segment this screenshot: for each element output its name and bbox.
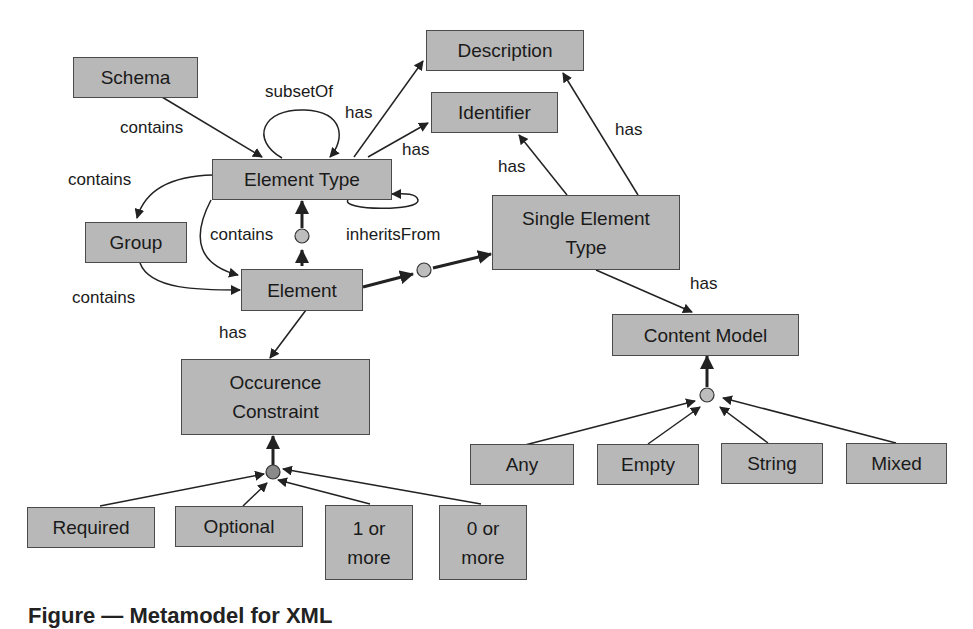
edge-label-element-has-occurence: has	[219, 323, 246, 343]
node-mixed-label: Mixed	[871, 449, 922, 478]
edge-set-has-identifier	[519, 135, 567, 195]
node-content-model-label: Content Model	[644, 321, 768, 350]
node-optional-label: Optional	[204, 512, 275, 541]
node-single-element-type: Single Element Type	[492, 195, 680, 270]
node-description: Description	[426, 30, 584, 71]
node-optional: Optional	[175, 506, 303, 547]
figure-caption: Figure — Metamodel for XML	[28, 603, 332, 629]
edge-label-et-has-description: has	[345, 103, 372, 123]
node-schema: Schema	[73, 57, 198, 98]
node-empty-label: Empty	[621, 450, 675, 479]
junction-content-model	[700, 388, 714, 402]
node-identifier-label: Identifier	[458, 98, 531, 127]
node-occurence-constraint-label-1: Occurence	[230, 368, 322, 397]
edge-element-has-occurence	[270, 310, 306, 358]
edge-label-set-has-content-model: has	[690, 274, 717, 294]
node-required: Required	[27, 507, 155, 548]
node-mixed: Mixed	[846, 443, 947, 484]
node-element: Element	[241, 269, 363, 311]
node-element-label: Element	[267, 276, 337, 305]
junction-single-element-type	[417, 263, 431, 277]
node-group-label: Group	[110, 228, 163, 257]
node-empty: Empty	[597, 444, 699, 485]
node-zero-or-more: 0 or more	[439, 505, 527, 580]
node-single-element-type-label-1: Single Element	[522, 204, 650, 233]
node-one-or-more-label-2: more	[347, 543, 390, 572]
node-schema-label: Schema	[101, 63, 171, 92]
node-element-type: Element Type	[212, 159, 392, 200]
edge-label-inherits-from: inheritsFrom	[346, 225, 440, 245]
edge-label-set-has-description: has	[615, 120, 642, 140]
node-zero-or-more-label-2: more	[461, 543, 504, 572]
node-required-label: Required	[52, 513, 129, 542]
node-element-type-label: Element Type	[244, 165, 360, 194]
edge-label-group-contains-element: contains	[72, 288, 135, 308]
edge-subset-of	[264, 110, 339, 158]
edge-label-et-contains-group: contains	[68, 170, 131, 190]
junction-element-type	[295, 229, 309, 243]
edge-set-has-content-model	[596, 270, 692, 312]
node-zero-or-more-label-1: 0 or	[467, 514, 500, 543]
node-any-label: Any	[506, 450, 539, 479]
node-string: String	[721, 443, 823, 484]
node-occurence-constraint: Occurence Constraint	[181, 359, 370, 435]
node-identifier: Identifier	[431, 92, 558, 133]
edge-label-et-has-identifier: has	[402, 140, 429, 160]
node-occurence-constraint-label-2: Constraint	[232, 397, 319, 426]
node-any: Any	[470, 444, 574, 485]
node-string-label: String	[747, 449, 797, 478]
node-single-element-type-label-2: Type	[565, 233, 606, 262]
edge-label-subset-of: subsetOf	[265, 82, 333, 102]
node-group: Group	[85, 222, 187, 263]
edge-group-contains-element	[140, 263, 240, 290]
node-content-model: Content Model	[612, 314, 799, 356]
edge-label-set-has-identifier: has	[498, 157, 525, 177]
node-one-or-more-label-1: 1 or	[353, 514, 386, 543]
node-one-or-more: 1 or more	[325, 505, 413, 580]
node-description-label: Description	[457, 36, 552, 65]
edge-label-schema-contains: contains	[120, 118, 183, 138]
junction-occurence	[266, 465, 280, 479]
edge-label-et-contains-element: contains	[210, 225, 273, 245]
edge-et-contains-group	[137, 175, 213, 218]
